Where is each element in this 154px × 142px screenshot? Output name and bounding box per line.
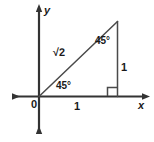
base-length-label: 1 [74, 101, 80, 112]
right-angle-marker [108, 88, 118, 97]
y-axis-label: y [44, 5, 50, 16]
hypotenuse-length-label: √2 [53, 47, 65, 58]
angle-at-apex-label: 45° [95, 36, 110, 46]
angle-at-origin-label: 45° [56, 81, 71, 91]
diagram-canvas [0, 0, 154, 142]
triangle-diagram: y x 0 1 1 √2 45° 45° [0, 0, 154, 142]
height-length-label: 1 [121, 62, 127, 73]
x-axis-label: x [138, 100, 144, 111]
hypotenuse-line [39, 22, 118, 97]
origin-label: 0 [31, 99, 37, 110]
